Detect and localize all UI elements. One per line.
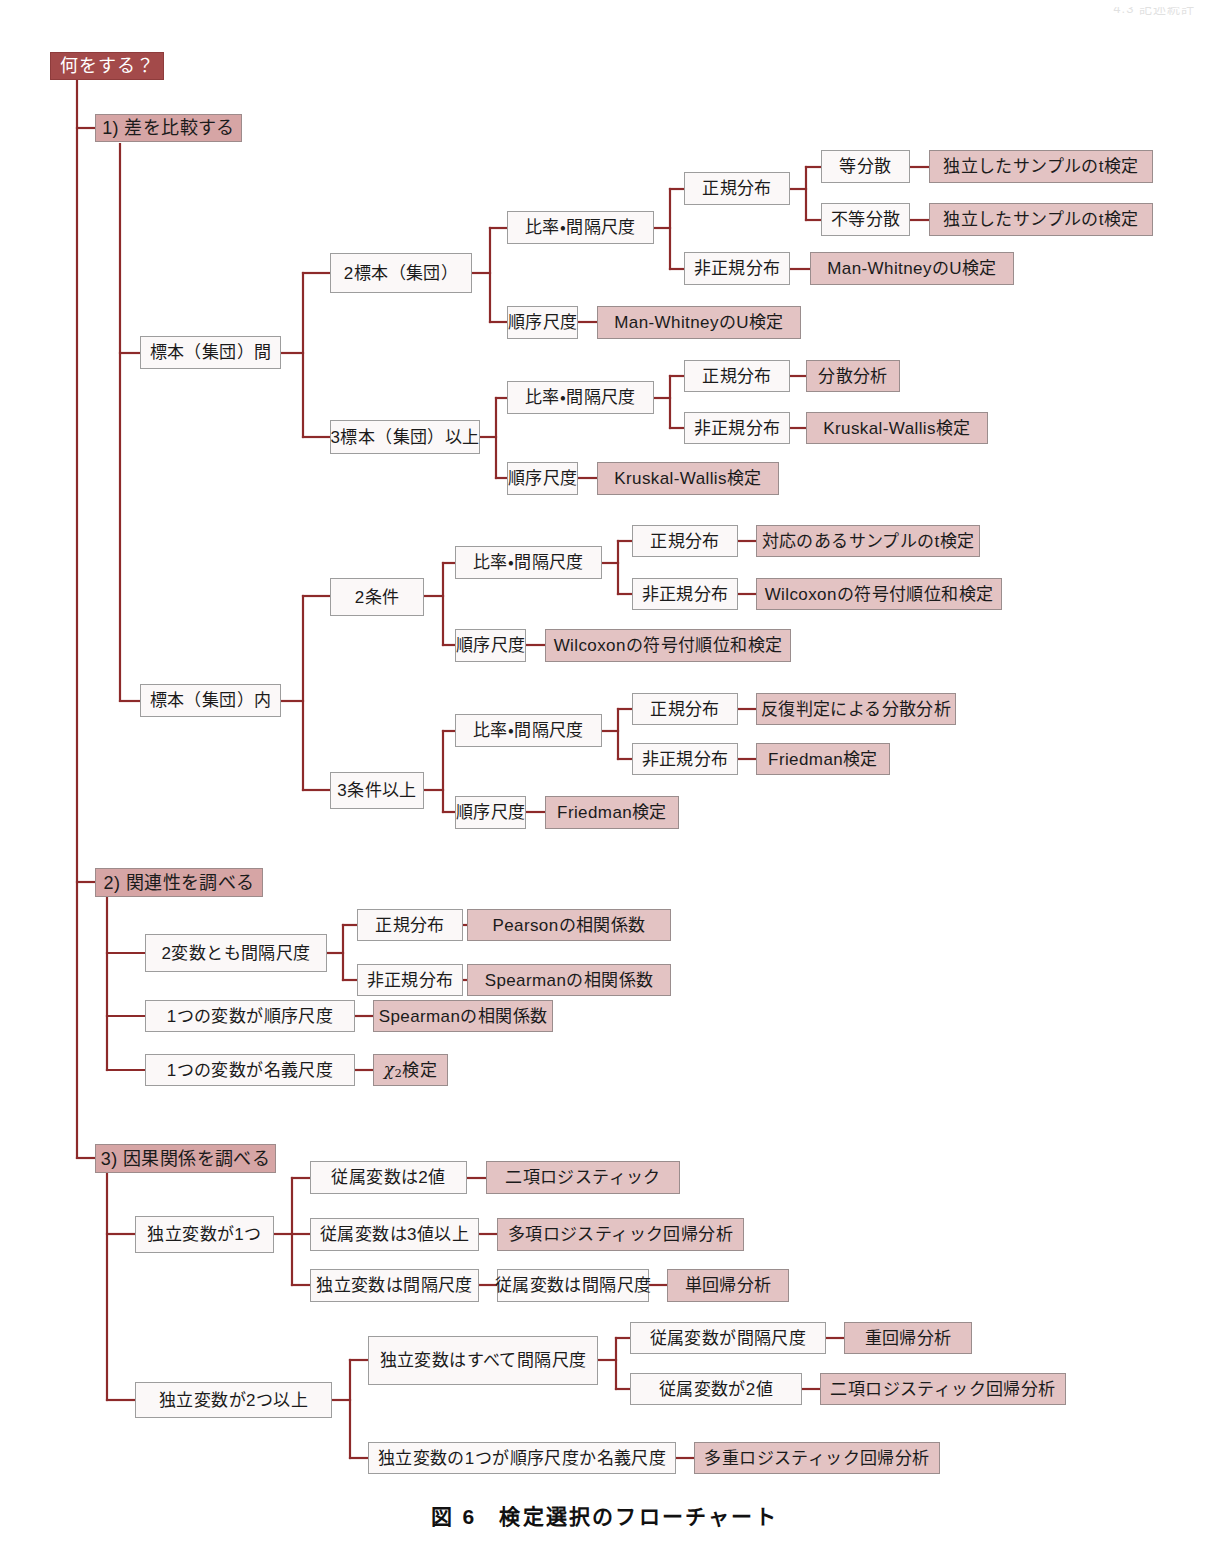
result-independent-t-test-unequal[interactable]: 独立したサンプルのt検定 — [929, 203, 1153, 236]
node-one-variable-nominal[interactable]: 1つの変数が名義尺度 — [145, 1054, 355, 1086]
result-kruskal-wallis-ordinal[interactable]: Kruskal-Wallis検定 — [597, 462, 779, 495]
result-spearman-correlation-ordinal[interactable]: Spearmanの相関係数 — [373, 1000, 553, 1032]
node-within-samples[interactable]: 標本（集団）内 — [140, 684, 281, 717]
node-both-interval[interactable]: 2変数とも間隔尺度 — [145, 934, 327, 972]
node-three-samples-ordinal[interactable]: 順序尺度 — [507, 462, 578, 495]
node-three-conditions-normal[interactable]: 正規分布 — [632, 693, 738, 725]
result-anova[interactable]: 分散分析 — [806, 360, 900, 392]
result-wilcoxon-signed-rank-ordinal[interactable]: Wilcoxonの符号付順位和検定 — [545, 629, 791, 662]
node-one-variable-ordinal[interactable]: 1つの変数が順序尺度 — [145, 1000, 355, 1032]
node-three-conditions[interactable]: 3条件以上 — [330, 772, 424, 809]
result-chi-square-test[interactable]: χ2検定 — [373, 1054, 448, 1086]
result-pearson-correlation[interactable]: Pearsonの相関係数 — [467, 909, 671, 941]
node-three-samples-normal[interactable]: 正規分布 — [684, 360, 790, 392]
node-dv-binary-multi[interactable]: 従属変数が2値 — [630, 1373, 802, 1405]
result-repeated-measures-anova[interactable]: 反復判定による分散分析 — [756, 693, 956, 725]
result-multinomial-logistic-regression[interactable]: 多項ロジスティック回帰分析 — [497, 1218, 744, 1251]
page-header: 4.3 記述統計 — [1113, 0, 1195, 17]
node-two-samples-normal[interactable]: 正規分布 — [684, 172, 790, 205]
result-simple-regression[interactable]: 単回帰分析 — [667, 1269, 789, 1302]
node-root[interactable]: 何をする？ — [50, 52, 164, 80]
node-two-samples-nonnormal[interactable]: 非正規分布 — [684, 252, 790, 285]
result-mann-whitney-u-ordinal[interactable]: Man-WhitneyのU検定 — [597, 306, 801, 339]
node-two-samples[interactable]: 2標本（集団） — [330, 253, 472, 293]
result-multiple-regression[interactable]: 重回帰分析 — [844, 1322, 972, 1354]
node-two-conditions-normal[interactable]: 正規分布 — [632, 525, 738, 557]
node-iv-ordinal-or-nominal[interactable]: 独立変数の1つが順序尺度か名義尺度 — [368, 1442, 676, 1474]
node-two-samples-ratio-interval[interactable]: 比率・間隔尺度 — [507, 211, 654, 244]
node-three-samples-nonnormal[interactable]: 非正規分布 — [684, 412, 790, 444]
node-branch-3[interactable]: 3) 因果関係を調べる — [95, 1144, 276, 1173]
chi-test-label: 検定 — [402, 1062, 437, 1079]
result-binomial-logistic[interactable]: 二項ロジスティック — [486, 1161, 680, 1194]
node-two-samples-ordinal[interactable]: 順序尺度 — [507, 306, 578, 339]
node-unequal-variance[interactable]: 不等分散 — [821, 203, 910, 236]
result-wilcoxon-signed-rank-nonnormal[interactable]: Wilcoxonの符号付順位和検定 — [756, 578, 1002, 610]
node-three-conditions-ordinal[interactable]: 順序尺度 — [455, 796, 526, 829]
result-friedman-nonnormal[interactable]: Friedman検定 — [756, 743, 890, 775]
result-spearman-correlation-nonnormal[interactable]: Spearmanの相関係数 — [467, 964, 671, 996]
node-between-samples[interactable]: 標本（集団）間 — [140, 336, 281, 369]
node-three-conditions-nonnormal[interactable]: 非正規分布 — [632, 743, 738, 775]
result-paired-t-test[interactable]: 対応のあるサンプルのt検定 — [756, 525, 980, 557]
result-binomial-logistic-regression[interactable]: 二項ロジスティック回帰分析 — [820, 1373, 1066, 1405]
result-friedman-ordinal[interactable]: Friedman検定 — [545, 796, 679, 829]
node-multiple-independent-variables[interactable]: 独立変数が2つ以上 — [135, 1382, 332, 1418]
flowchart-page: 4.3 記述統計 — [0, 0, 1209, 1563]
node-three-samples-ratio-interval[interactable]: 比率・間隔尺度 — [507, 381, 654, 414]
figure-caption: 図 6 検定選択のフローチャート — [0, 1500, 1209, 1530]
chi-symbol: χ2 — [384, 1061, 402, 1080]
node-two-conditions[interactable]: 2条件 — [330, 578, 424, 616]
result-kruskal-wallis-nonnormal[interactable]: Kruskal-Wallis検定 — [806, 412, 988, 444]
node-dv-interval-single[interactable]: 従属変数は間隔尺度 — [497, 1269, 649, 1302]
node-iv-interval[interactable]: 独立変数は間隔尺度 — [310, 1269, 479, 1302]
result-independent-t-test-equal[interactable]: 独立したサンプルのt検定 — [929, 150, 1153, 183]
node-branch-2[interactable]: 2) 関連性を調べる — [95, 868, 263, 897]
result-mann-whitney-u-two-samples[interactable]: Man-WhitneyのU検定 — [810, 252, 1014, 285]
node-two-conditions-nonnormal[interactable]: 非正規分布 — [632, 578, 738, 610]
node-two-conditions-ordinal[interactable]: 順序尺度 — [455, 629, 526, 662]
node-correlation-nonnormal[interactable]: 非正規分布 — [357, 964, 463, 996]
node-correlation-normal[interactable]: 正規分布 — [357, 909, 463, 941]
node-dv-three-or-more[interactable]: 従属変数は3値以上 — [310, 1218, 479, 1251]
node-three-conditions-ratio-interval[interactable]: 比率・間隔尺度 — [455, 714, 602, 747]
node-branch-1[interactable]: 1) 差を比較する — [95, 114, 242, 142]
result-multiple-logistic-regression[interactable]: 多重ロジスティック回帰分析 — [694, 1442, 940, 1474]
node-three-samples[interactable]: 3標本（集団）以上 — [330, 420, 480, 454]
node-two-conditions-ratio-interval[interactable]: 比率・間隔尺度 — [455, 546, 602, 579]
node-all-iv-interval[interactable]: 独立変数はすべて間隔尺度 — [368, 1336, 598, 1385]
node-dv-binary[interactable]: 従属変数は2値 — [310, 1161, 467, 1194]
node-dv-interval-multi[interactable]: 従属変数が間隔尺度 — [630, 1322, 826, 1354]
node-one-independent-variable[interactable]: 独立変数が1つ — [135, 1216, 274, 1253]
node-equal-variance[interactable]: 等分散 — [821, 150, 910, 183]
